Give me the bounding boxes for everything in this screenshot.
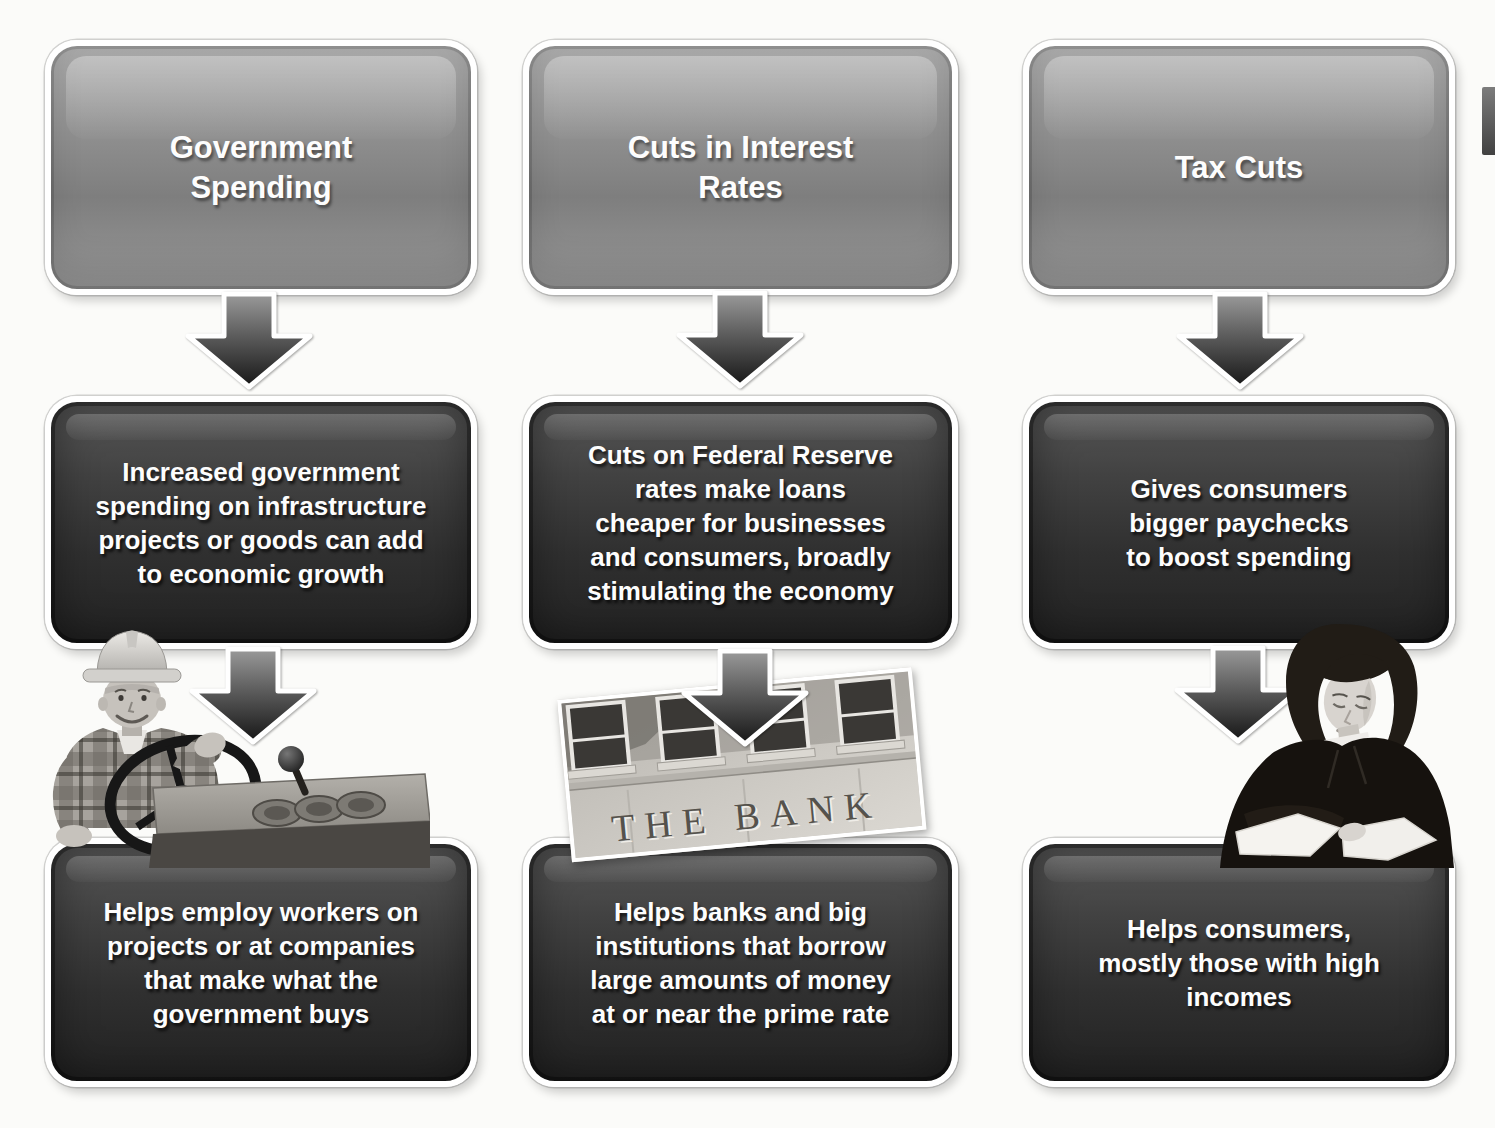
outcome-box: Helps banks and big institutions that bo… <box>523 838 958 1087</box>
down-arrow-icon <box>1175 291 1305 391</box>
down-arrow-icon <box>680 648 810 748</box>
outcome-label: Helps employ workers on projects or at c… <box>86 895 437 1031</box>
mechanism-label: Gives consumers bigger paychecks to boos… <box>1108 472 1369 574</box>
businesswoman-photo <box>1190 616 1480 868</box>
column-tax-cuts: Tax Cuts Gives consumers bigger paycheck… <box>1023 0 1455 1128</box>
down-arrow-icon <box>184 291 314 391</box>
mechanism-box: Cuts on Federal Reserve rates make loans… <box>523 396 958 649</box>
outcome-label: Helps banks and big institutions that bo… <box>572 895 909 1031</box>
column-interest-rate-cuts: Cuts in Interest Rates Cuts on Federal R… <box>523 0 958 1128</box>
header-label: Government Spending <box>170 128 353 208</box>
header-label: Cuts in Interest Rates <box>628 128 854 208</box>
header-box: Government Spending <box>45 40 477 295</box>
gear-lever-knob <box>278 746 304 772</box>
header-box: Tax Cuts <box>1023 40 1455 295</box>
construction-worker-photo <box>25 616 430 868</box>
mechanism-box: Gives consumers bigger paychecks to boos… <box>1023 396 1455 649</box>
fiscal-stimulus-diagram: Government Spending Increased government… <box>0 0 1495 1128</box>
mechanism-box: Increased government spending on infrast… <box>45 396 477 649</box>
mechanism-label: Increased government spending on infrast… <box>78 455 445 591</box>
down-arrow-icon <box>675 290 805 390</box>
page-edge-mark <box>1482 87 1495 155</box>
outcome-label: Helps consumers, mostly those with high … <box>1080 912 1398 1014</box>
header-label: Tax Cuts <box>1175 148 1304 188</box>
mechanism-label: Cuts on Federal Reserve rates make loans… <box>569 438 911 608</box>
header-box: Cuts in Interest Rates <box>523 40 958 295</box>
outcome-box: Helps employ workers on projects or at c… <box>45 838 477 1087</box>
outcome-box: Helps consumers, mostly those with high … <box>1023 838 1455 1087</box>
column-government-spending: Government Spending Increased government… <box>45 0 477 1128</box>
worker-left-hand <box>56 825 92 847</box>
